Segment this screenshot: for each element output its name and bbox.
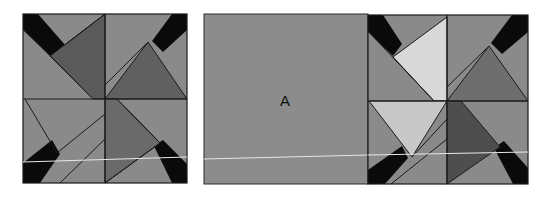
- left-pinwheel-block: [23, 14, 187, 183]
- right-pinwheel-block: [368, 15, 528, 184]
- square-a-label: A: [280, 92, 290, 109]
- diagram-canvas: [0, 0, 540, 198]
